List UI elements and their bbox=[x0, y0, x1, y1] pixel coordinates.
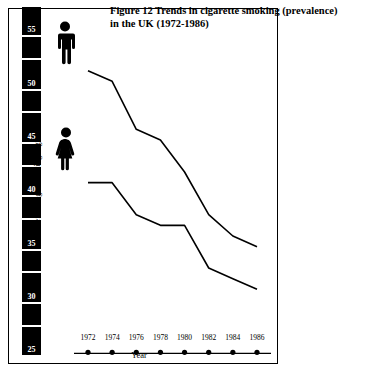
y-axis-segment bbox=[22, 197, 41, 218]
y-axis-segment bbox=[22, 251, 41, 272]
y-axis-bar: 55504540353025 bbox=[22, 12, 41, 364]
y-axis-segment bbox=[22, 144, 41, 165]
y-axis-tick-30: 30 bbox=[22, 273, 41, 302]
y-axis-segment bbox=[22, 304, 41, 325]
figure-root: Figure 12 Trends in cigarette smoking (p… bbox=[0, 0, 385, 373]
y-axis-tick-40: 40 bbox=[22, 167, 41, 196]
plot-area bbox=[41, 8, 278, 364]
y-axis-tick-35: 35 bbox=[22, 220, 41, 249]
y-axis-tick-55: 55 bbox=[22, 7, 41, 36]
y-axis-tick-45: 45 bbox=[22, 113, 41, 142]
x-axis-title: Year bbox=[0, 350, 278, 360]
y-axis-segment bbox=[22, 37, 41, 58]
series-line-men bbox=[88, 71, 257, 247]
x-axis-label-1986: 1986 bbox=[242, 333, 272, 342]
y-axis-tick-50: 50 bbox=[22, 60, 41, 89]
y-axis-segment bbox=[22, 91, 41, 112]
series-lines bbox=[41, 8, 278, 364]
